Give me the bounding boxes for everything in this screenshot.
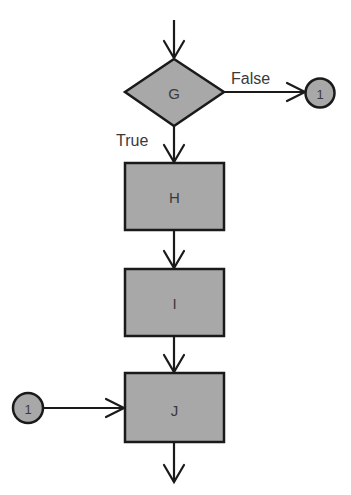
exit-arrow [164,442,184,482]
decision-g-label: G [168,85,180,102]
connector-out-label: 1 [316,87,323,102]
decision-g[interactable]: G [125,59,224,126]
process-i[interactable]: I [125,269,224,336]
connector-out-1[interactable]: 1 [306,79,335,108]
process-j-label: J [171,402,179,419]
entry-arrow [164,20,184,58]
false-label: False [231,70,270,87]
true-label: True [116,132,148,149]
process-j[interactable]: J [125,373,224,442]
process-h[interactable]: H [125,163,224,230]
arrow-connector-to-j [43,399,124,417]
arrow-h-to-i [164,230,184,268]
process-h-label: H [169,189,180,206]
flowchart: G False 1 True H I 1 [0,0,351,495]
true-branch-arrow [164,126,184,162]
connector-in-label: 1 [24,402,31,417]
process-i-label: I [172,295,176,312]
connector-in-1[interactable]: 1 [13,393,43,423]
arrow-i-to-j [164,336,184,372]
